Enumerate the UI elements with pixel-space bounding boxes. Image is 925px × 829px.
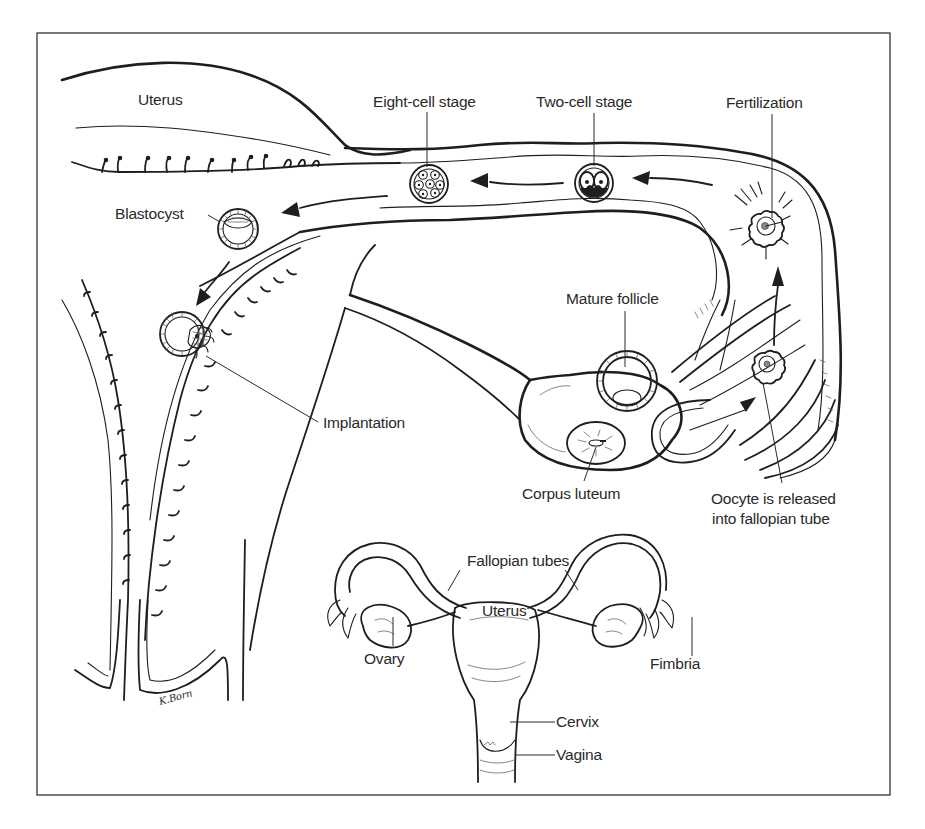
corpus-luteum-icon bbox=[567, 422, 625, 464]
ruptured-follicle-icon bbox=[652, 397, 756, 463]
ovarian-ligament bbox=[250, 245, 530, 650]
two-cell-icon bbox=[575, 164, 613, 202]
label-corpus-luteum: Corpus luteum bbox=[522, 485, 620, 502]
label-fimbria: Fimbria bbox=[650, 655, 701, 672]
label-oocyte-released-line1: Oocyte is released bbox=[711, 490, 836, 507]
label-mature-follicle: Mature follicle bbox=[566, 290, 659, 307]
label-uterus: Uterus bbox=[138, 91, 183, 108]
uterine-lining-middle bbox=[145, 248, 300, 640]
eight-cell-icon bbox=[410, 165, 448, 203]
label-eight-cell-stage: Eight-cell stage bbox=[373, 93, 476, 110]
label-two-cell-stage: Two-cell stage bbox=[536, 93, 632, 110]
inset-leader-lines bbox=[393, 570, 692, 755]
migration-arrows bbox=[196, 171, 712, 306]
leader-lines bbox=[206, 112, 782, 483]
label-vagina: Vagina bbox=[556, 746, 602, 763]
uterine-lining-left bbox=[62, 280, 130, 700]
fimbriae-main bbox=[672, 296, 838, 478]
label-blastocyst: Blastocyst bbox=[115, 205, 185, 222]
fallopian-tube-illustration bbox=[150, 143, 841, 520]
label-oocyte-released-line2: into fallopian tube bbox=[712, 510, 830, 527]
label-cervix: Cervix bbox=[556, 713, 599, 730]
reproduction-diagram: K.Born bbox=[0, 0, 925, 829]
uterus-outer-wall bbox=[62, 63, 410, 172]
fertilized-egg-icon bbox=[730, 182, 792, 259]
diagram-labels: Uterus Eight-cell stage Two-cell stage F… bbox=[115, 91, 836, 763]
label-fallopian-tubes: Fallopian tubes bbox=[467, 552, 570, 569]
mature-follicle-icon bbox=[597, 351, 657, 411]
label-uterus-inset: Uterus bbox=[482, 602, 527, 619]
label-implantation: Implantation bbox=[323, 414, 405, 431]
blastocyst-icon bbox=[218, 209, 258, 249]
implantation-icon bbox=[160, 312, 214, 358]
label-ovary: Ovary bbox=[364, 650, 405, 667]
migration-arrow-up bbox=[772, 266, 784, 345]
label-fertilization: Fertilization bbox=[726, 94, 803, 111]
